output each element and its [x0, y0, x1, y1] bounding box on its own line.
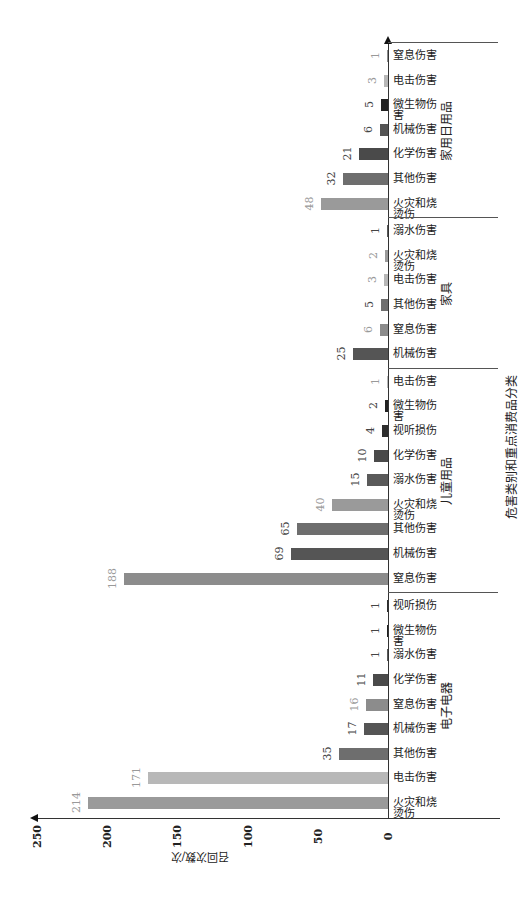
bar [124, 573, 388, 585]
bar [380, 124, 388, 136]
bar [384, 75, 388, 87]
bar [291, 548, 388, 560]
category-label: 其他伤害 [393, 173, 437, 184]
bar [384, 274, 388, 286]
bar-value-label: 214 [69, 788, 82, 818]
y-axis-label: 召回次数/次 [160, 850, 240, 866]
category-label: 电击伤害 [393, 274, 437, 285]
category-label: 机械伤害 [393, 723, 437, 734]
chart-area: 050100150200250 214火灾和烧烫伤171电击伤害35其他伤害17… [0, 0, 531, 905]
category-label: 视听损伤 [393, 425, 437, 436]
bar-value-label: 188 [106, 563, 119, 593]
bar [366, 699, 388, 711]
bar [387, 376, 389, 388]
group-separator [388, 42, 498, 43]
category-label: 微生物伤害 [393, 99, 437, 121]
bar [353, 348, 388, 360]
category-label: 化学伤害 [393, 450, 437, 461]
y-tick-label: 150 [171, 822, 184, 852]
bar [374, 450, 388, 462]
bar [387, 625, 389, 637]
category-label: 火灾和烧烫伤 [393, 250, 437, 272]
group-separator [388, 592, 498, 593]
bar-value-label: 40 [313, 489, 326, 519]
group-label: 电子电器 [437, 655, 454, 755]
bar-value-label: 32 [325, 164, 338, 194]
category-axis-line [388, 40, 389, 819]
bar [380, 324, 388, 336]
category-label: 电击伤害 [393, 376, 437, 387]
group-label: 儿童用品 [437, 431, 454, 531]
bar-value-label: 21 [340, 139, 353, 169]
bar [343, 173, 388, 185]
category-label: 视听损伤 [393, 600, 437, 611]
bar [148, 772, 388, 784]
bar [359, 148, 388, 160]
bar [332, 499, 388, 511]
bar [387, 50, 389, 62]
category-label: 机械伤害 [393, 124, 437, 135]
group-label: 家用日用品 [437, 80, 454, 180]
bar-value-label: 48 [302, 188, 315, 218]
bar [381, 99, 388, 111]
bar-value-label: 1 [368, 591, 381, 621]
bar-value-label: 65 [278, 514, 291, 544]
category-label: 化学伤害 [393, 674, 437, 685]
group-separator [388, 368, 498, 369]
bar-value-label: 1 [368, 216, 381, 246]
bar-value-label: 171 [129, 763, 142, 793]
y-tick-label: 0 [382, 822, 395, 852]
bar [297, 523, 388, 535]
category-label: 窒息伤害 [393, 699, 437, 710]
bar [373, 674, 388, 686]
category-label: 微生物伤害 [393, 625, 437, 647]
y-tick-label: 50 [311, 822, 324, 852]
bar [339, 748, 388, 760]
group-separator [388, 217, 498, 218]
bar [387, 600, 389, 612]
category-label: 电击伤害 [393, 75, 437, 86]
category-label: 微生物伤害 [393, 400, 437, 422]
category-label: 溺水伤害 [393, 474, 437, 485]
category-label: 火灾和烧烫伤 [393, 797, 437, 819]
y-tick-label: 250 [31, 822, 44, 852]
bar [381, 299, 388, 311]
category-label: 窒息伤害 [393, 50, 437, 61]
bar-value-label: 35 [320, 738, 333, 768]
bar [387, 649, 389, 661]
bar [88, 797, 388, 809]
bar-value-label: 1 [368, 41, 381, 71]
bar [382, 425, 388, 437]
bar-value-label: 11 [354, 665, 367, 695]
category-label: 窒息伤害 [393, 324, 437, 335]
category-label: 其他伤害 [393, 523, 437, 534]
y-tick-label: 200 [101, 822, 114, 852]
bar [321, 198, 388, 210]
category-label: 火灾和烧烫伤 [393, 499, 437, 521]
bar [364, 723, 388, 735]
bar [367, 474, 388, 486]
bar-value-label: 25 [334, 339, 347, 369]
category-label: 溺水伤害 [393, 649, 437, 660]
category-label: 窒息伤害 [393, 573, 437, 584]
bar [387, 225, 389, 237]
y-tick-label: 100 [241, 822, 254, 852]
category-label: 电击伤害 [393, 772, 437, 783]
category-label: 机械伤害 [393, 548, 437, 559]
chart-title: 危害类别和重点消费品分类 [502, 367, 519, 527]
category-label: 其他伤害 [393, 299, 437, 310]
category-label: 化学伤害 [393, 148, 437, 159]
bar-value-label: 1 [368, 366, 381, 396]
category-label: 机械伤害 [393, 348, 437, 359]
category-label: 溺水伤害 [393, 225, 437, 236]
bar [385, 250, 388, 262]
group-label: 家具 [437, 243, 454, 343]
category-label: 其他伤害 [393, 748, 437, 759]
bar [385, 400, 388, 412]
